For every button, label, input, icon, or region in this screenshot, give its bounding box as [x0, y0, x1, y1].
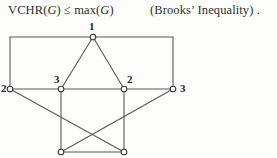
inequality-lhs-variable: G [47, 3, 56, 17]
vertex-colour-label-v-left: 2 [1, 83, 7, 94]
inequality-lhs-paren: ) [57, 3, 61, 17]
graph-edge [10, 89, 124, 152]
figure-page: VCHR(G) ≤ max(G) (Brooks’ Inequality) . … [0, 0, 277, 158]
graph-edge [61, 89, 173, 152]
inequality-lhs-name: VCHR( [8, 3, 47, 17]
less-than-or-equal-symbol: ≤ [64, 3, 71, 17]
graph-vertex-v-bottom-left[interactable] [58, 149, 64, 155]
inequality-rhs-name: max( [74, 3, 100, 17]
vertex-colour-label-v-top: 1 [89, 21, 95, 32]
graph-vertex-v-top[interactable] [90, 34, 96, 40]
graph-edge [61, 37, 93, 89]
graph-vertex-v-bottom-right[interactable] [121, 149, 127, 155]
graph-vertex-v-mid-left[interactable] [58, 86, 64, 92]
graph-canvas [0, 18, 277, 158]
vertex-colour-label-v-mid-left: 3 [54, 74, 60, 85]
graph-vertex-v-left[interactable] [7, 86, 13, 92]
vertex-colour-label-v-mid-right: 2 [127, 74, 133, 85]
vertex-colour-label-v-right: 3 [180, 83, 186, 94]
graph-vertex-v-right[interactable] [170, 86, 176, 92]
inequality-rhs-paren: ) [109, 3, 113, 17]
graph-edge [93, 37, 124, 89]
graph-edge-layer [10, 37, 173, 152]
inequality-attribution-note: (Brooks’ Inequality) . [150, 2, 260, 18]
graph-vertex-v-mid-right[interactable] [121, 86, 127, 92]
graph-vertex-layer [7, 34, 176, 155]
graph-diagram: 12323 [0, 18, 277, 158]
inequality-expression: VCHR(G) ≤ max(G) [8, 2, 114, 18]
